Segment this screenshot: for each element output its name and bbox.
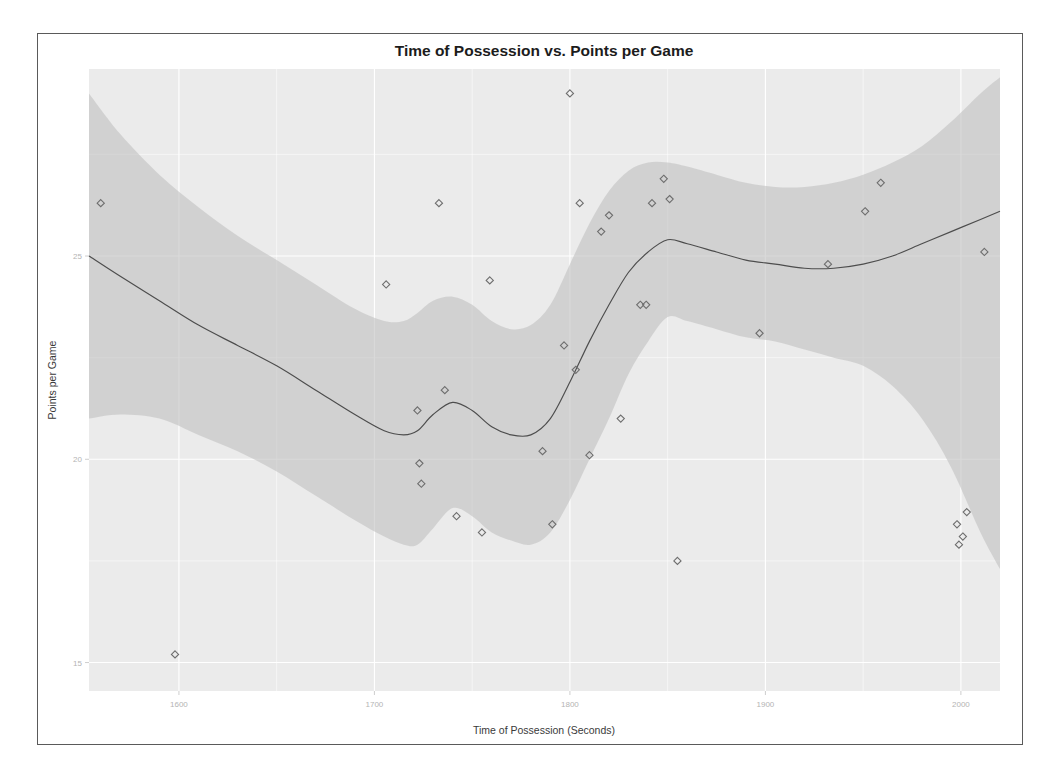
chart-canvas: 15202516001700180019002000 Time of Posse…: [38, 34, 1022, 744]
chart-title: Time of Possession vs. Points per Game: [395, 42, 694, 59]
x-tick-label: 1700: [366, 700, 384, 709]
figure-frame: 15202516001700180019002000 Time of Posse…: [37, 33, 1023, 745]
x-tick-label: 1600: [170, 700, 188, 709]
x-tick-label: 2000: [952, 700, 970, 709]
y-tick-label: 25: [73, 252, 82, 261]
y-tick-label: 15: [73, 659, 82, 668]
y-tick-label: 20: [73, 455, 82, 464]
x-tick-label: 1900: [757, 700, 775, 709]
y-axis-title: Points per Game: [46, 340, 58, 419]
x-tick-label: 1800: [561, 700, 579, 709]
x-axis-title: Time of Possession (Seconds): [473, 724, 615, 736]
